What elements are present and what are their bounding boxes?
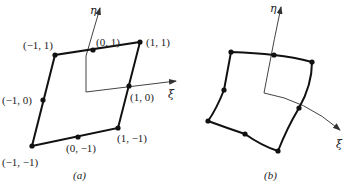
node bbox=[29, 143, 34, 148]
node bbox=[205, 118, 210, 123]
element-boundary-b bbox=[208, 52, 312, 151]
node-label: (−1, 0) bbox=[2, 94, 32, 107]
panel-b: η ξ (b) bbox=[205, 2, 343, 182]
node bbox=[52, 52, 57, 57]
caption-a: (a) bbox=[73, 169, 86, 182]
node bbox=[90, 47, 95, 52]
node bbox=[126, 83, 131, 88]
node-label: (0, −1) bbox=[66, 142, 96, 155]
node bbox=[40, 97, 45, 102]
node bbox=[137, 39, 142, 44]
panel-a: η ξ (−1, −1) (0, −1) (1, −1) (1, 0) (1, … bbox=[2, 4, 176, 182]
node bbox=[296, 105, 301, 110]
node bbox=[75, 134, 80, 139]
node-label: (1, 1) bbox=[146, 36, 170, 49]
node-label: (−1, 1) bbox=[23, 39, 53, 52]
nodes-b bbox=[205, 49, 314, 153]
node-label: (1, −1) bbox=[117, 132, 147, 145]
isoparametric-element-figure: η ξ (−1, −1) (0, −1) (1, −1) (1, 0) (1, … bbox=[0, 0, 349, 190]
node-label: (0, 1) bbox=[96, 36, 120, 49]
eta-label-b: η bbox=[270, 2, 277, 15]
node bbox=[228, 49, 233, 54]
eta-label-a: η bbox=[90, 4, 97, 17]
node bbox=[271, 52, 276, 57]
node bbox=[242, 131, 247, 136]
node bbox=[309, 59, 314, 64]
node bbox=[221, 87, 226, 92]
node bbox=[115, 125, 120, 130]
caption-b: (b) bbox=[264, 169, 277, 182]
node-label: (−1, −1) bbox=[2, 156, 39, 169]
eta-axis-b bbox=[264, 7, 281, 93]
xi-axis-b bbox=[264, 93, 340, 130]
xi-label-b: ξ bbox=[336, 138, 343, 151]
node bbox=[275, 148, 280, 153]
xi-label-a: ξ bbox=[168, 88, 175, 101]
node-label: (1, 0) bbox=[130, 91, 154, 104]
